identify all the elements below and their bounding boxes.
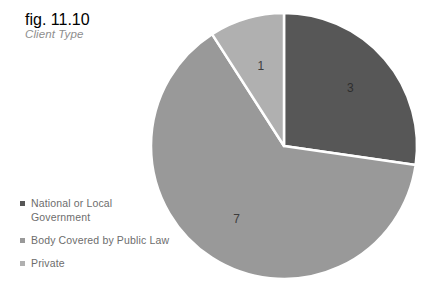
chart-legend: National or Local GovernmentBody Covered…: [20, 196, 170, 279]
legend-item[interactable]: Body Covered by Public Law: [20, 233, 170, 247]
legend-item[interactable]: National or Local Government: [20, 196, 170, 224]
pie-slice-group: [151, 13, 417, 279]
pie-slice-value: 3: [347, 81, 354, 95]
legend-swatch-icon: [20, 238, 25, 243]
legend-item[interactable]: Private: [20, 256, 170, 270]
pie-slice-value: 1: [257, 59, 264, 73]
legend-item-label: Body Covered by Public Law: [31, 233, 169, 247]
legend-swatch-icon: [20, 261, 25, 266]
pie-slice-value: 7: [233, 212, 240, 226]
legend-swatch-icon: [20, 201, 25, 206]
legend-item-label: National or Local Government: [31, 196, 170, 224]
legend-item-label: Private: [31, 256, 65, 270]
